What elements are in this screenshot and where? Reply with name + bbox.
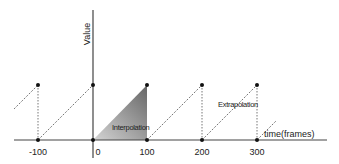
dot bbox=[91, 138, 95, 142]
tick-label-neg100: -100 bbox=[29, 147, 47, 157]
diagram-canvas: Value time(frames) -100 0 100 200 300 In… bbox=[0, 0, 339, 164]
extrapolation-label: Extrapolation bbox=[218, 100, 258, 109]
y-axis-label: Value bbox=[82, 23, 92, 45]
dot bbox=[255, 138, 259, 142]
keyframe-dots bbox=[36, 83, 259, 142]
dot bbox=[200, 138, 204, 142]
interpolation-label: Interpolation bbox=[112, 123, 150, 132]
tick-label-300: 300 bbox=[249, 147, 264, 157]
dot bbox=[145, 83, 149, 87]
tick-label-0: 0 bbox=[95, 147, 100, 157]
tick-label-100: 100 bbox=[139, 147, 154, 157]
interpolation-extrapolation-diagram: Value time(frames) -100 0 100 200 300 In… bbox=[0, 0, 339, 164]
dot bbox=[255, 83, 259, 87]
dot bbox=[91, 83, 95, 87]
tick-label-200: 200 bbox=[194, 147, 209, 157]
dot bbox=[36, 138, 40, 142]
dot bbox=[200, 83, 204, 87]
dot bbox=[36, 83, 40, 87]
dot bbox=[145, 138, 149, 142]
x-axis-label: time(frames) bbox=[264, 129, 315, 139]
